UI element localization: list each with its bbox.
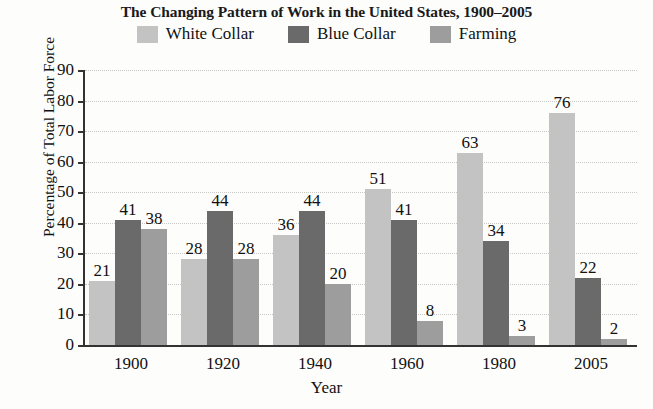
bar-group-1980: 63343 — [457, 70, 541, 345]
chart-legend: White CollarBlue CollarFarming — [0, 24, 653, 44]
bar-value-label: 3 — [518, 317, 527, 334]
legend-swatch-farming-icon — [430, 26, 451, 43]
bar-1940-farming[interactable]: 20 — [325, 70, 351, 345]
bar-rect — [601, 339, 627, 345]
y-tick-label: 50 — [57, 182, 74, 202]
bar-1900-farming[interactable]: 38 — [141, 70, 167, 345]
x-axis-title: Year — [0, 378, 653, 398]
bar-1980-blue-collar[interactable]: 34 — [483, 70, 509, 345]
legend-swatch-white-collar-icon — [137, 26, 158, 43]
x-tick-label: 1920 — [206, 354, 240, 374]
bar-rect — [457, 153, 483, 346]
bar-rect — [273, 235, 299, 345]
x-tick-label: 1900 — [114, 354, 148, 374]
x-tick-label: 2005 — [574, 354, 608, 374]
bar-rect — [181, 259, 207, 345]
x-tick-label: 1960 — [390, 354, 424, 374]
y-tick-mark — [78, 314, 85, 316]
bar-value-label: 41 — [120, 201, 137, 218]
bar-1940-white-collar[interactable]: 36 — [273, 70, 299, 345]
bar-value-label: 44 — [212, 192, 229, 209]
bar-value-label: 8 — [426, 302, 435, 319]
y-tick-label: 70 — [57, 121, 74, 141]
y-tick-mark — [78, 223, 85, 225]
bar-value-label: 2 — [610, 320, 619, 337]
y-tick-label: 80 — [57, 91, 74, 111]
bar-rect — [89, 281, 115, 345]
bar-2005-blue-collar[interactable]: 22 — [575, 70, 601, 345]
y-tick-mark — [78, 101, 85, 103]
y-tick-mark — [78, 253, 85, 255]
bar-1920-white-collar[interactable]: 28 — [181, 70, 207, 345]
legend-label: Blue Collar — [317, 24, 396, 44]
bar-1920-blue-collar[interactable]: 44 — [207, 70, 233, 345]
x-tick-label: 1980 — [482, 354, 516, 374]
bar-rect — [549, 113, 575, 345]
bar-group-2005: 76222 — [549, 70, 633, 345]
chart-title: The Changing Pattern of Work in the Unit… — [0, 3, 653, 21]
legend-item-farming[interactable]: Farming — [430, 24, 517, 44]
bar-value-label: 36 — [278, 216, 295, 233]
bar-rect — [207, 211, 233, 345]
y-tick-mark — [78, 131, 85, 133]
bar-rect — [141, 229, 167, 345]
legend-label: Farming — [459, 24, 517, 44]
bar-2005-white-collar[interactable]: 76 — [549, 70, 575, 345]
y-axis-title: Percentage of Total Labor Force — [40, 0, 58, 282]
bar-group-1940: 364420 — [273, 70, 357, 345]
bar-1960-farming[interactable]: 8 — [417, 70, 443, 345]
bar-value-label: 22 — [580, 259, 597, 276]
bar-rect — [299, 211, 325, 345]
bar-value-label: 28 — [238, 240, 255, 257]
y-tick-label: 20 — [57, 274, 74, 294]
bar-group-1900: 214138 — [89, 70, 173, 345]
bar-value-label: 41 — [396, 201, 413, 218]
y-tick-label: 60 — [57, 152, 74, 172]
bar-1940-blue-collar[interactable]: 44 — [299, 70, 325, 345]
y-tick-label: 40 — [57, 213, 74, 233]
bar-rect — [391, 220, 417, 345]
y-tick-mark — [78, 284, 85, 286]
y-tick-mark — [78, 345, 85, 347]
bar-value-label: 20 — [330, 265, 347, 282]
bar-2005-farming[interactable]: 2 — [601, 70, 627, 345]
x-tick-label: 1940 — [298, 354, 332, 374]
y-tick-mark — [78, 162, 85, 164]
bar-value-label: 21 — [94, 262, 111, 279]
bar-1980-white-collar[interactable]: 63 — [457, 70, 483, 345]
bar-rect — [115, 220, 141, 345]
bar-value-label: 44 — [304, 192, 321, 209]
legend-item-white-collar[interactable]: White Collar — [137, 24, 254, 44]
bar-rect — [575, 278, 601, 345]
bar-group-1960: 51418 — [365, 70, 449, 345]
bar-rect — [365, 189, 391, 345]
bar-1960-blue-collar[interactable]: 41 — [391, 70, 417, 345]
legend-label: White Collar — [166, 24, 254, 44]
bar-value-label: 38 — [146, 210, 163, 227]
bar-1960-white-collar[interactable]: 51 — [365, 70, 391, 345]
bar-value-label: 63 — [462, 134, 479, 151]
legend-item-blue-collar[interactable]: Blue Collar — [288, 24, 396, 44]
bar-value-label: 51 — [370, 170, 387, 187]
bar-1900-white-collar[interactable]: 21 — [89, 70, 115, 345]
bar-value-label: 76 — [554, 94, 571, 111]
legend-swatch-blue-collar-icon — [288, 26, 309, 43]
y-tick-mark — [78, 192, 85, 194]
bar-1920-farming[interactable]: 28 — [233, 70, 259, 345]
bar-value-label: 34 — [488, 222, 505, 239]
bar-rect — [233, 259, 259, 345]
bar-group-1920: 284428 — [181, 70, 265, 345]
bar-1900-blue-collar[interactable]: 41 — [115, 70, 141, 345]
bar-rect — [483, 241, 509, 345]
bar-value-label: 28 — [186, 240, 203, 257]
y-tick-label: 30 — [57, 243, 74, 263]
y-tick-label: 0 — [66, 335, 75, 355]
bar-chart: The Changing Pattern of Work in the Unit… — [0, 0, 653, 409]
y-tick-mark — [78, 70, 85, 72]
bar-rect — [509, 336, 535, 345]
plot-area: 0102030405060708090214138190028442819203… — [83, 70, 637, 347]
bar-1980-farming[interactable]: 3 — [509, 70, 535, 345]
bar-rect — [417, 321, 443, 345]
bar-rect — [325, 284, 351, 345]
y-tick-label: 90 — [57, 60, 74, 80]
